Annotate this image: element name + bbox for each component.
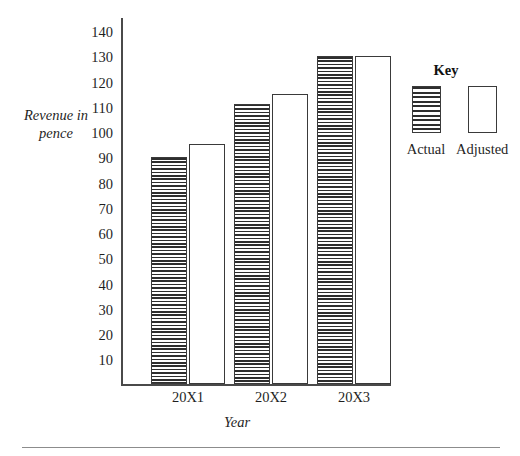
y-axis-tick-labels: 102030405060708090100110120130140 xyxy=(0,18,113,386)
x-axis-title: Year xyxy=(121,414,353,431)
y-axis-tick-label: 50 xyxy=(99,253,114,268)
x-axis-tick-label: 20X1 xyxy=(145,390,231,405)
bars-layer xyxy=(121,18,391,384)
y-axis-tick-label: 130 xyxy=(91,51,113,66)
x-axis-tick-labels: 20X120X220X3 xyxy=(121,390,391,410)
bar-group xyxy=(151,18,227,384)
legend-label-adjusted: Adjusted xyxy=(456,142,508,157)
bar-group xyxy=(317,18,393,384)
y-axis-tick-label: 120 xyxy=(91,76,113,91)
bar-actual-20x2 xyxy=(234,104,270,384)
legend-item-actual: Actual xyxy=(400,86,452,157)
y-axis-tick-label: 70 xyxy=(99,202,114,217)
x-axis-tick-label: 20X3 xyxy=(311,390,397,405)
bar-actual-20x3 xyxy=(317,56,353,384)
y-axis-tick-label: 30 xyxy=(99,303,114,318)
y-axis-tick-label: 10 xyxy=(99,354,114,369)
y-axis-tick-label: 100 xyxy=(91,126,113,141)
bar-group xyxy=(234,18,310,384)
plot-area xyxy=(121,18,391,386)
x-axis-line xyxy=(121,384,391,386)
x-axis-tick-label: 20X2 xyxy=(228,390,314,405)
legend-label-actual: Actual xyxy=(400,142,452,157)
y-axis-tick-label: 20 xyxy=(99,328,114,343)
legend-item-adjusted: Adjusted xyxy=(456,86,508,157)
y-axis-tick-label: 80 xyxy=(99,177,114,192)
legend-swatch-adjusted xyxy=(468,86,497,133)
legend-title: Key xyxy=(396,62,496,79)
y-axis-tick-label: 60 xyxy=(99,227,114,242)
chart-legend: Key Actual Adjusted xyxy=(396,62,514,170)
y-axis-tick-label: 110 xyxy=(92,101,113,116)
bar-actual-20x1 xyxy=(151,157,187,384)
bar-adjusted-20x2 xyxy=(272,94,308,384)
y-axis-tick-label: 40 xyxy=(99,278,114,293)
bar-adjusted-20x1 xyxy=(189,144,225,384)
y-axis-tick-label: 90 xyxy=(99,152,114,167)
footer-divider xyxy=(22,447,500,448)
y-axis-tick-label: 140 xyxy=(91,25,113,40)
bar-chart-figure: Revenue in pence 10203040506070809010011… xyxy=(0,0,520,456)
legend-swatch-actual xyxy=(412,86,441,133)
bar-adjusted-20x3 xyxy=(355,56,391,384)
